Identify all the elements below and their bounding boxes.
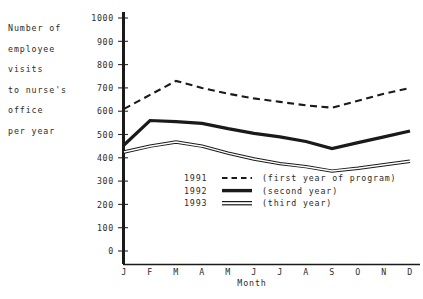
series-line-1993-inner — [124, 142, 410, 171]
y-tick-label: 600 — [97, 106, 114, 116]
series-1993 — [124, 142, 410, 171]
y-tick-label: 800 — [97, 60, 114, 70]
legend-year-1991: 1991 — [184, 173, 207, 183]
series-1991 — [124, 81, 410, 109]
chart-legend: 1991(first year of program)1992(second y… — [184, 173, 396, 208]
y-tick-label: 1000 — [91, 13, 114, 23]
x-tick-label-september: S — [329, 267, 335, 277]
y-tick-label: 0 — [108, 246, 114, 256]
legend-note-1991: (first year of program) — [262, 173, 396, 183]
x-tick-label-december: D — [407, 267, 413, 277]
x-tick-label-march: M — [173, 267, 179, 277]
y-tick-label: 500 — [97, 130, 114, 140]
x-tick-label-october: O — [355, 267, 361, 277]
legend-note-1992: (second year) — [262, 186, 338, 196]
y-tick-label: 700 — [97, 83, 114, 93]
legend-note-1993: (third year) — [262, 198, 332, 208]
y-tick-label: 900 — [97, 37, 114, 47]
legend-year-1993: 1993 — [184, 198, 207, 208]
x-tick-label-april: A — [199, 267, 205, 277]
x-tick-label-july: J — [277, 267, 283, 277]
legend-swatch-1993 — [222, 202, 252, 205]
legend-year-1992: 1992 — [184, 186, 207, 196]
chart-figure: Number of employee visits to nurse's off… — [0, 0, 423, 299]
data-series-group — [124, 81, 410, 171]
x-tick-label-june: J — [251, 267, 257, 277]
x-tick-label-august: A — [303, 267, 309, 277]
series-line-1991 — [124, 81, 410, 109]
y-tick-label: 200 — [97, 200, 114, 210]
x-tick-label-january: J — [121, 267, 127, 277]
x-axis-title: Month — [237, 278, 266, 288]
y-tick-label: 100 — [97, 223, 114, 233]
x-tick-label-may: M — [225, 267, 231, 277]
line-chart-plot: 01002003004005006007008009001000 JFMAMJJ… — [0, 0, 423, 299]
y-tick-label: 300 — [97, 176, 114, 186]
y-tick-label: 400 — [97, 153, 114, 163]
x-axis-ticks: JFMAMJJASOND — [121, 267, 413, 277]
x-tick-label-november: N — [381, 267, 387, 277]
x-tick-label-february: F — [147, 267, 153, 277]
